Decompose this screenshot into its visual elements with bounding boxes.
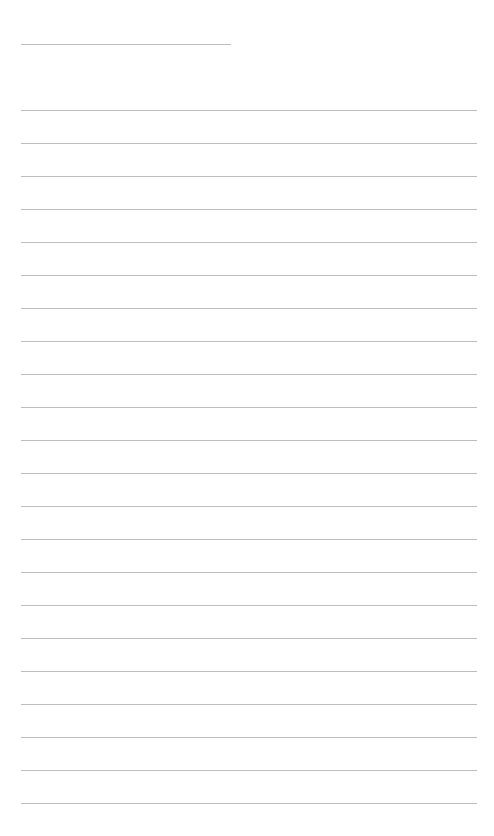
ruled-line bbox=[21, 638, 477, 639]
ruled-line bbox=[21, 143, 477, 144]
ruled-line bbox=[21, 374, 477, 375]
ruled-line bbox=[21, 473, 477, 474]
ruled-line bbox=[21, 605, 477, 606]
ruled-line bbox=[21, 110, 477, 111]
ruled-line bbox=[21, 209, 477, 210]
ruled-line bbox=[21, 176, 477, 177]
ruled-line bbox=[21, 539, 477, 540]
ruled-line bbox=[21, 440, 477, 441]
ruled-line bbox=[21, 242, 477, 243]
ruled-line bbox=[21, 572, 477, 573]
ruled-line bbox=[21, 737, 477, 738]
ruled-line bbox=[21, 770, 477, 771]
ruled-line bbox=[21, 275, 477, 276]
ruled-line bbox=[21, 803, 477, 804]
ruled-line bbox=[21, 308, 477, 309]
ruled-line bbox=[21, 341, 477, 342]
lined-page bbox=[0, 0, 494, 836]
ruled-line bbox=[21, 671, 477, 672]
ruled-line bbox=[21, 506, 477, 507]
ruled-line bbox=[21, 407, 477, 408]
ruled-line bbox=[21, 704, 477, 705]
header-line bbox=[21, 44, 231, 45]
